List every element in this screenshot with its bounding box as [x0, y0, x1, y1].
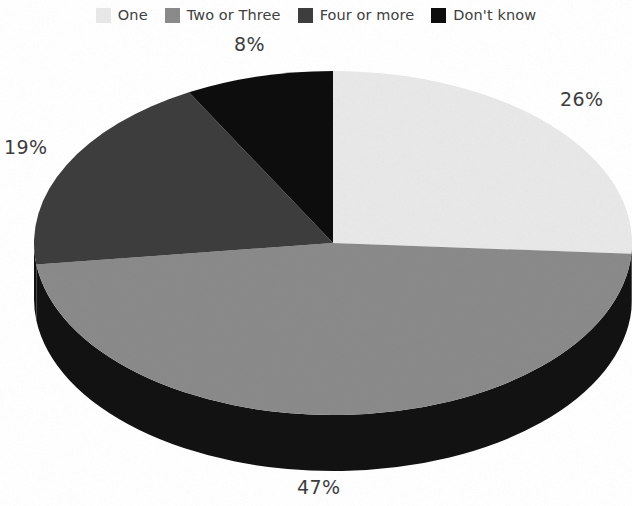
- value-label-two-or-three: 47%: [297, 476, 340, 498]
- value-label-four-or-more: 19%: [4, 136, 47, 158]
- value-label-one: 26%: [560, 88, 603, 110]
- pie-chart: One Two or Three Four or more Don't know…: [0, 0, 632, 506]
- value-label-dont-know: 8%: [234, 33, 265, 55]
- pie-top-faces: [34, 71, 632, 415]
- pie-graphic: [0, 0, 632, 506]
- pie-svg: [0, 0, 632, 506]
